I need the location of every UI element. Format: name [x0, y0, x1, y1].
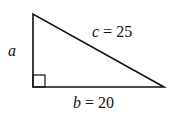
side-c-eq: =	[99, 23, 116, 40]
side-a-var: a	[8, 42, 16, 59]
right-angle-marker	[33, 75, 45, 87]
side-a-label: a	[8, 43, 16, 59]
side-b-label: b = 20	[73, 95, 114, 111]
side-b-eq: =	[81, 94, 98, 111]
side-b-value: 20	[98, 94, 114, 111]
side-c-value: 25	[116, 23, 132, 40]
side-c-label: c = 25	[92, 24, 132, 40]
side-b-var: b	[73, 94, 81, 111]
